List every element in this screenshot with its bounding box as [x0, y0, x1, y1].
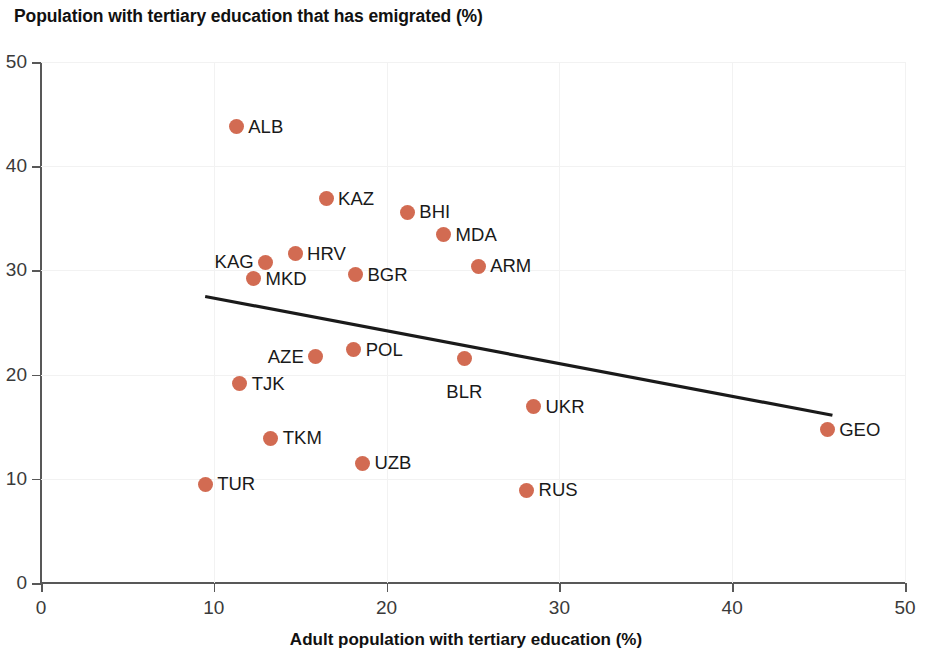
data-point-bhi[interactable]: [400, 205, 415, 220]
point-label-bhi: BHI: [419, 201, 450, 223]
x-tick-label: 10: [203, 597, 224, 619]
point-label-rus: RUS: [539, 479, 578, 501]
point-label-tjk: TJK: [252, 373, 285, 395]
y-tick-mark: [32, 166, 41, 168]
point-label-aze: AZE: [268, 346, 304, 368]
y-tick-mark: [32, 479, 41, 481]
data-point-arm[interactable]: [471, 259, 486, 274]
data-point-hrv[interactable]: [288, 246, 303, 261]
point-label-pol: POL: [366, 339, 403, 361]
data-point-alb[interactable]: [229, 119, 244, 134]
scatter-chart: Population with tertiary education that …: [0, 0, 932, 666]
y-tick-mark: [32, 270, 41, 272]
point-label-geo: GEO: [839, 419, 880, 441]
data-point-rus[interactable]: [519, 483, 534, 498]
x-tick-mark: [732, 583, 734, 592]
data-point-geo[interactable]: [820, 422, 835, 437]
y-tick-label: 20: [6, 364, 27, 386]
page-title: Population with tertiary education that …: [14, 6, 483, 27]
data-point-uzb[interactable]: [355, 456, 370, 471]
point-label-tur: TUR: [217, 473, 255, 495]
trendline: [41, 62, 905, 583]
point-label-hrv: HRV: [307, 243, 346, 265]
point-label-ukr: UKR: [545, 396, 584, 418]
y-tick-mark: [32, 375, 41, 377]
point-label-alb: ALB: [248, 116, 283, 138]
x-tick-label: 50: [894, 597, 915, 619]
data-point-bgr[interactable]: [348, 267, 363, 282]
x-tick-mark: [559, 583, 561, 592]
x-axis-label: Adult population with tertiary education…: [0, 630, 932, 650]
point-label-kaz: KAZ: [338, 188, 374, 210]
x-tick-mark: [41, 583, 43, 592]
point-label-tkm: TKM: [283, 427, 322, 449]
x-tick-label: 20: [376, 597, 397, 619]
point-label-mkd: MKD: [266, 268, 307, 290]
y-tick-label: 0: [16, 572, 27, 594]
x-tick-label: 40: [722, 597, 743, 619]
x-tick-label: 30: [549, 597, 570, 619]
x-tick-label: 0: [36, 597, 47, 619]
point-label-arm: ARM: [490, 255, 531, 277]
x-tick-mark: [387, 583, 389, 592]
y-tick-label: 40: [6, 155, 27, 177]
y-tick-label: 30: [6, 259, 27, 281]
point-label-mda: MDA: [456, 224, 497, 246]
data-point-kaz[interactable]: [319, 191, 334, 206]
point-label-kag: KAG: [215, 251, 254, 273]
point-label-bgr: BGR: [367, 264, 407, 286]
data-point-tkm[interactable]: [263, 431, 278, 446]
x-tick-mark: [214, 583, 216, 592]
x-tick-mark: [905, 583, 907, 592]
y-tick-mark: [32, 62, 41, 64]
point-label-blr: BLR: [446, 381, 482, 403]
gridline-vertical: [905, 62, 906, 583]
y-tick-label: 50: [6, 51, 27, 73]
point-label-uzb: UZB: [374, 452, 411, 474]
y-tick-mark: [32, 583, 41, 585]
data-point-tur[interactable]: [198, 477, 213, 492]
y-tick-label: 10: [6, 468, 27, 490]
plot-area: 0102030405001020304050 ALBKAZBHIMDAHRVKA…: [41, 62, 905, 583]
